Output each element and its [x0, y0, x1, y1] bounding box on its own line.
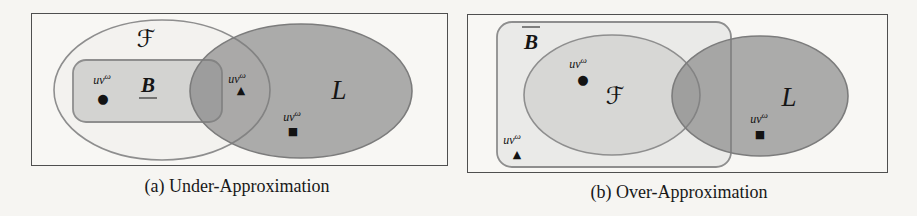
figure-approximation-venn: ℱ B L uvω ● uvω ▲ uvω ■ B ℱ L uvω ● uvω …: [0, 0, 917, 216]
point-label-omega: ω: [239, 70, 245, 80]
caption-over-approximation: (b) Over-Approximation: [590, 182, 767, 203]
caption-under-approximation: (a) Under-Approximation: [144, 176, 329, 197]
point-label-word-1b: uvω: [569, 56, 587, 70]
point-label-omega: ω: [294, 108, 300, 118]
point-label-base: uv: [569, 57, 580, 71]
point-label-omega: ω: [761, 110, 767, 120]
set-l-region: [190, 24, 412, 158]
filled-triangle-marker: ▲: [513, 149, 521, 160]
point-label-base: uv: [503, 133, 514, 147]
set-l-label: L: [331, 77, 346, 104]
point-label-word-1a: uvω: [93, 72, 111, 86]
point-label-word-2b: uvω: [503, 132, 521, 146]
point-label-word-3b: uvω: [750, 111, 768, 125]
point-label-base: uv: [93, 73, 104, 87]
set-b-underline-label: B: [139, 75, 157, 96]
filled-circle-marker: ●: [97, 92, 108, 105]
panel-over-approximation: B ℱ L uvω ● uvω ▲ uvω ■: [467, 14, 888, 173]
point-label-base: uv: [283, 110, 294, 124]
point-label-word-3a: uvω: [283, 109, 301, 123]
set-f-label: ℱ: [606, 84, 625, 108]
set-l-label: L: [781, 84, 796, 111]
point-label-base: uv: [750, 112, 761, 126]
point-label-omega: ω: [514, 131, 520, 141]
filled-circle-marker: ●: [577, 73, 588, 86]
point-label-omega: ω: [580, 55, 586, 65]
filled-square-marker: ■: [755, 129, 765, 140]
set-b-underline-text: B: [139, 73, 157, 99]
filled-triangle-marker: ▲: [237, 85, 245, 96]
filled-square-marker: ■: [288, 126, 298, 137]
point-label-omega: ω: [104, 71, 110, 81]
set-bbar-overline-label: B: [522, 32, 540, 53]
set-f-label: ℱ: [137, 27, 156, 51]
panel-under-approximation: ℱ B L uvω ● uvω ▲ uvω ■: [31, 13, 448, 166]
set-bbar-overline-text: B: [522, 27, 540, 54]
